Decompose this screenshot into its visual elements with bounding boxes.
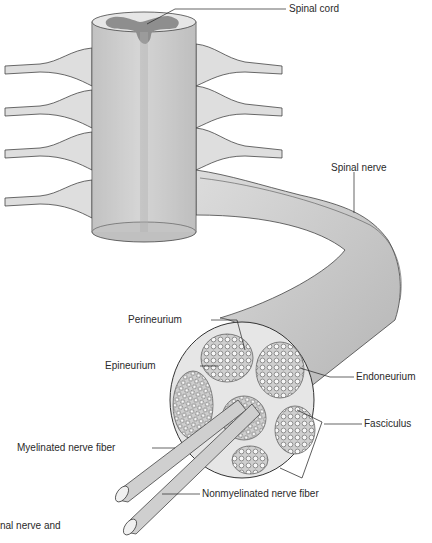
fascicle-2: [256, 342, 304, 398]
label-fasciculus: Fasciculus: [364, 418, 411, 430]
fascicle-1: [201, 334, 253, 382]
label-perineurium: Perineurium: [128, 314, 182, 326]
spinal-cord: [92, 12, 196, 242]
right-nerve-roots: [196, 44, 282, 170]
label-spinal-nerve: Spinal nerve: [331, 162, 387, 174]
label-epineurium: Epineurium: [105, 360, 156, 372]
left-nerve-roots: [5, 48, 92, 218]
caption-fragment: nal nerve and: [0, 520, 61, 532]
fascicle-5: [275, 406, 315, 454]
diagram-canvas: [0, 0, 432, 543]
label-nonmyelinated-nerve-fiber: Nonmyelinated nerve fiber: [202, 488, 319, 500]
fascicle-6: [232, 446, 268, 474]
label-spinal-cord: Spinal cord: [289, 3, 339, 15]
label-endoneurium: Endoneurium: [356, 371, 415, 383]
label-myelinated-nerve-fiber: Myelinated nerve fiber: [17, 442, 115, 454]
